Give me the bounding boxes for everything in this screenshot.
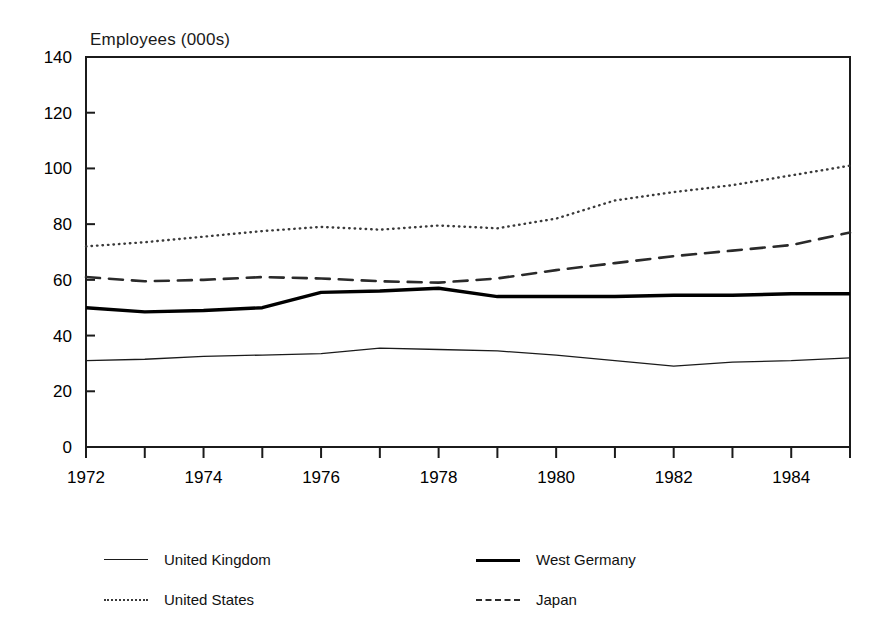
legend-swatch-united-states — [104, 592, 148, 606]
y-axis-tick-label: 140 — [44, 48, 72, 67]
y-axis-tick-label: 100 — [44, 159, 72, 178]
plot-area: 020406080100120140 197219741976197819801… — [0, 0, 896, 520]
legend-item-west-germany[interactable]: West Germany — [476, 548, 636, 570]
y-axis-tick-label: 40 — [53, 327, 72, 346]
y-axis-ticks: 020406080100120140 — [44, 48, 95, 457]
data-line-united-states — [86, 166, 850, 247]
x-axis-tick-label: 1982 — [655, 468, 693, 487]
y-axis-tick-label: 20 — [53, 382, 72, 401]
legend-item-united-states[interactable]: United States — [104, 588, 254, 610]
chart-legend: United Kingdom West Germany United State… — [0, 520, 896, 600]
legend-item-japan[interactable]: Japan — [476, 588, 577, 610]
legend-swatch-japan — [476, 592, 520, 606]
data-line-west-germany — [86, 288, 850, 312]
x-axis-tick-label: 1972 — [67, 468, 105, 487]
x-axis-tick-label: 1984 — [772, 468, 810, 487]
legend-swatch-united-kingdom — [104, 552, 148, 566]
y-axis-tick-label: 0 — [63, 438, 72, 457]
legend-label-united-kingdom: United Kingdom — [164, 551, 271, 568]
x-axis-ticks: 1972197419761978198019821984 — [67, 447, 850, 487]
legend-label-west-germany: West Germany — [536, 551, 636, 568]
x-axis-tick-label: 1978 — [420, 468, 458, 487]
legend-label-united-states: United States — [164, 591, 254, 608]
y-axis-tick-label: 80 — [53, 215, 72, 234]
data-series-group — [86, 166, 850, 367]
x-axis-tick-label: 1980 — [537, 468, 575, 487]
chart-figure: Employees (000s) 020406080100120140 1972… — [0, 0, 896, 625]
data-line-united-kingdom — [86, 348, 850, 366]
x-axis-tick-label: 1974 — [185, 468, 223, 487]
y-axis-tick-label: 120 — [44, 104, 72, 123]
legend-swatch-west-germany — [476, 552, 520, 566]
x-axis-tick-label: 1976 — [302, 468, 340, 487]
data-line-japan — [86, 233, 850, 283]
plot-frame — [86, 57, 850, 447]
legend-item-united-kingdom[interactable]: United Kingdom — [104, 548, 271, 570]
y-axis-tick-label: 60 — [53, 271, 72, 290]
axes — [86, 57, 850, 447]
legend-label-japan: Japan — [536, 591, 577, 608]
